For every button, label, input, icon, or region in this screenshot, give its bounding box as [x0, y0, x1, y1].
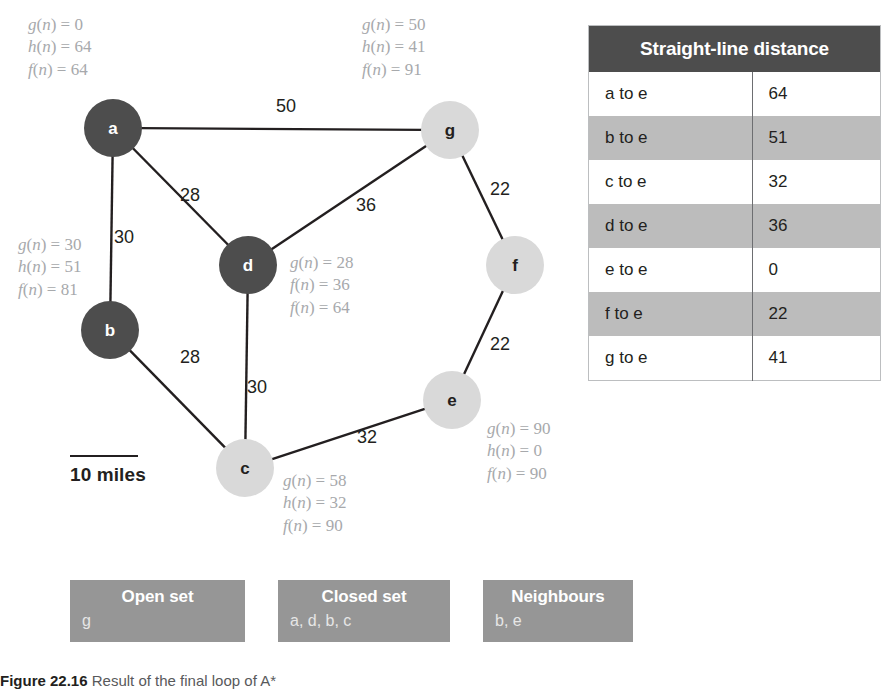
cost-annotation-c: g(n) = 58h(n) = 32f(n) = 90: [283, 470, 346, 537]
table-row: g to e41: [589, 336, 881, 381]
table-header-row: Straight-line distance: [589, 26, 881, 73]
neighbours-title: Neighbours: [495, 587, 621, 607]
table-cell-distance: 22: [752, 292, 880, 336]
edge-d-c: [245, 292, 247, 441]
cost-line: f(n) = 90: [283, 515, 346, 537]
neighbours-members: b, e: [495, 612, 621, 630]
cost-line: h(n) = 0: [487, 440, 550, 462]
neighbours-box: Neighbours b, e: [483, 580, 633, 642]
cost-annotation-a: g(n) = 0h(n) = 64f(n) = 64: [28, 14, 91, 81]
node-label-d: d: [243, 256, 253, 275]
cost-line: g(n) = 28: [290, 252, 353, 274]
open-set-members: g: [82, 612, 233, 630]
cost-line: f(n) = 64: [290, 297, 353, 319]
node-label-c: c: [240, 459, 249, 478]
cost-line: f(n) = 90: [487, 463, 550, 485]
edge-f-e: [463, 289, 503, 375]
table-row: c to e32: [589, 160, 881, 204]
cost-line: f(n) = 91: [362, 59, 425, 81]
cost-line: g(n) = 50: [362, 14, 425, 36]
table-cell-pair: g to e: [589, 336, 753, 381]
table-title: Straight-line distance: [589, 26, 881, 73]
edge-weight-a-d: 28: [180, 185, 200, 205]
edge-weight-b-c: 28: [180, 347, 200, 367]
node-label-e: e: [447, 391, 456, 410]
straight-line-distance-table: Straight-line distance a to e64b to e51c…: [588, 25, 881, 381]
table-row: f to e22: [589, 292, 881, 336]
table-cell-distance: 64: [752, 72, 880, 116]
cost-line: f(n) = 64: [28, 59, 91, 81]
cost-line: h(n) = 51: [18, 256, 81, 278]
table-cell-pair: c to e: [589, 160, 753, 204]
table-row: e to e0: [589, 248, 881, 292]
figure-caption-text: Result of the final loop of A*: [92, 672, 276, 689]
cost-line: f(n) = 81: [18, 279, 81, 301]
table-cell-pair: a to e: [589, 72, 753, 116]
closed-set-box: Closed set a, d, b, c: [278, 580, 450, 642]
node-label-a: a: [108, 119, 118, 138]
cost-line: g(n) = 58: [283, 470, 346, 492]
node-label-f: f: [512, 256, 518, 275]
edge-a-g: [140, 128, 423, 130]
table-cell-distance: 41: [752, 336, 880, 381]
table-row: b to e51: [589, 116, 881, 160]
table-cell-distance: 36: [752, 204, 880, 248]
figure-caption: Figure 22.16 Result of the final loop of…: [0, 672, 889, 689]
scale-bar-label: 10 miles: [70, 464, 146, 486]
table-cell-distance: 0: [752, 248, 880, 292]
cost-annotation-e: g(n) = 90h(n) = 0f(n) = 90: [487, 418, 550, 485]
cost-annotation-d: g(n) = 28f(n) = 36f(n) = 64: [290, 252, 353, 319]
edge-a-b: [110, 155, 112, 303]
table-cell-distance: 51: [752, 116, 880, 160]
cost-line: h(n) = 32: [283, 492, 346, 514]
table-cell-pair: e to e: [589, 248, 753, 292]
graph-diagram: 502830362222302832 agdbfec g(n) = 0h(n) …: [0, 0, 600, 560]
node-label-b: b: [105, 321, 115, 340]
edge-weight-d-g: 36: [356, 195, 376, 215]
closed-set-members: a, d, b, c: [290, 612, 438, 630]
scale-bar-rule: [70, 455, 138, 457]
cost-line: g(n) = 0: [28, 14, 91, 36]
cost-line: f(n) = 36: [290, 274, 353, 296]
edge-weight-d-c: 30: [247, 377, 267, 397]
table-cell-distance: 32: [752, 160, 880, 204]
edge-weight-f-e: 22: [490, 334, 510, 354]
edge-d-g: [270, 145, 427, 250]
figure-number: Figure 22.16: [0, 672, 88, 689]
table-row: a to e64: [589, 72, 881, 116]
cost-line: g(n) = 30: [18, 234, 81, 256]
open-set-title: Open set: [82, 587, 233, 607]
cost-annotation-b: g(n) = 30h(n) = 51f(n) = 81: [18, 234, 81, 301]
open-set-box: Open set g: [70, 580, 245, 642]
table-row: d to e36: [589, 204, 881, 248]
edge-weight-a-b: 30: [114, 227, 134, 247]
scale-bar: 10 miles: [70, 455, 146, 486]
table-cell-pair: d to e: [589, 204, 753, 248]
table-body: a to e64b to e51c to e32d to e36e to e0f…: [589, 72, 881, 381]
table-cell-pair: f to e: [589, 292, 753, 336]
cost-line: h(n) = 41: [362, 36, 425, 58]
cost-line: g(n) = 90: [487, 418, 550, 440]
node-label-g: g: [445, 121, 455, 140]
edge-weight-c-e: 32: [357, 427, 377, 447]
cost-line: h(n) = 64: [28, 36, 91, 58]
edge-c-e: [271, 408, 427, 459]
cost-annotation-g: g(n) = 50h(n) = 41f(n) = 91: [362, 14, 425, 81]
edge-b-c: [129, 349, 226, 448]
table-cell-pair: b to e: [589, 116, 753, 160]
closed-set-title: Closed set: [290, 587, 438, 607]
edge-weight-g-f: 22: [490, 179, 510, 199]
edge-weight-a-g: 50: [276, 96, 296, 116]
